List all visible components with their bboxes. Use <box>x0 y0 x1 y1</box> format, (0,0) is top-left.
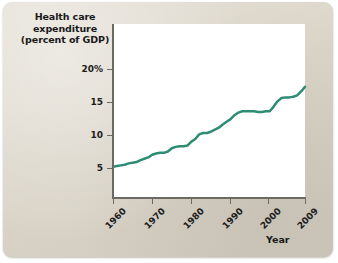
figure-card: Health care expenditure (percent of GDP)… <box>3 2 333 257</box>
y-tick-5 <box>107 168 113 169</box>
y-axis-line <box>112 24 114 199</box>
x-tick-1980 <box>191 198 192 204</box>
x-tick-label-1960: 1960 <box>97 206 128 237</box>
y-tick-label-15: 15 <box>61 97 103 107</box>
y-axis-title-line-3: (percent of GDP) <box>17 34 113 46</box>
x-tick-1960 <box>113 198 114 204</box>
y-axis-title: Health care expenditure (percent of GDP) <box>17 11 113 46</box>
plot-area <box>113 24 305 198</box>
x-tick-2000 <box>268 198 269 204</box>
x-tick-2009 <box>305 198 306 204</box>
y-axis-title-line-1: Health care <box>17 11 113 23</box>
y-tick-10 <box>107 135 113 136</box>
x-tick-1970 <box>152 198 153 204</box>
y-axis-title-line-2: expenditure <box>17 23 113 35</box>
x-axis-title: Year <box>266 234 290 245</box>
y-tick-label-5: 5 <box>61 163 103 173</box>
x-tick-label-2000: 2000 <box>252 206 283 237</box>
x-tick-1990 <box>230 198 231 204</box>
x-tick-label-2009: 2009 <box>289 206 320 237</box>
x-tick-label-1970: 1970 <box>136 206 167 237</box>
y-tick-15 <box>107 102 113 103</box>
y-tick-20 <box>107 69 113 70</box>
y-tick-label-10: 10 <box>61 130 103 140</box>
x-tick-label-1990: 1990 <box>214 206 245 237</box>
x-tick-label-1980: 1980 <box>175 206 206 237</box>
y-tick-label-20: 20% <box>61 64 103 74</box>
x-axis-line <box>112 197 306 199</box>
